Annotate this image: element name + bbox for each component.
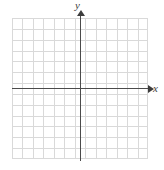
x-axis-label: x [153, 83, 158, 94]
x-axis-line [12, 88, 151, 89]
coordinate-graph-figure: x y [0, 0, 164, 170]
y-axis-label: y [75, 0, 80, 11]
y-axis-line [80, 16, 81, 161]
